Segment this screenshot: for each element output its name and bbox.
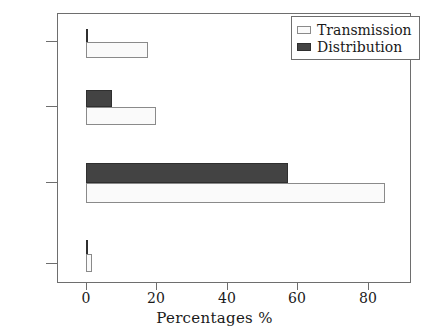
legend-label-transmission: Transmission bbox=[317, 23, 412, 37]
bar-cap-transmission bbox=[86, 254, 92, 272]
bar-rm-transmission bbox=[86, 107, 156, 125]
legend-swatch-transmission-icon bbox=[297, 26, 311, 34]
legend-label-distribution: Distribution bbox=[317, 40, 402, 54]
ytick-cap bbox=[46, 263, 57, 264]
legend-item-distribution: Distribution bbox=[297, 38, 412, 55]
bar-bm-transmission bbox=[86, 42, 148, 58]
bar-chart-figure: Transmission Distribution BM RM EN CAP 0… bbox=[0, 0, 429, 331]
xticklabel-80: 80 bbox=[359, 290, 377, 306]
chart-legend: Transmission Distribution bbox=[291, 16, 420, 60]
xticklabel-20: 20 bbox=[147, 290, 165, 306]
xticklabel-0: 0 bbox=[82, 290, 91, 306]
xtick-20 bbox=[156, 283, 157, 290]
bar-en-distribution bbox=[86, 163, 288, 183]
ytick-en bbox=[46, 182, 57, 183]
legend-swatch-distribution-icon bbox=[297, 43, 311, 51]
xticklabel-60: 60 bbox=[288, 290, 306, 306]
xtick-0 bbox=[86, 283, 87, 290]
xticklabel-40: 40 bbox=[218, 290, 236, 306]
plot-frame: Transmission Distribution bbox=[57, 13, 411, 283]
ytick-rm bbox=[46, 106, 57, 107]
legend-item-transmission: Transmission bbox=[297, 21, 412, 38]
ytick-bm bbox=[46, 41, 57, 42]
xtick-80 bbox=[368, 283, 369, 290]
bar-cap-distribution bbox=[86, 240, 88, 254]
xaxis-title: Percentages % bbox=[0, 309, 429, 327]
bar-en-transmission bbox=[86, 183, 385, 203]
xtick-60 bbox=[297, 283, 298, 290]
bar-bm-distribution bbox=[86, 29, 88, 42]
bar-rm-distribution bbox=[86, 90, 112, 107]
xtick-40 bbox=[227, 283, 228, 290]
